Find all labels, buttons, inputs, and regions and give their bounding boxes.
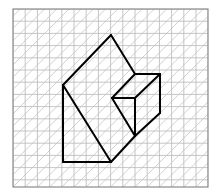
isometric-grid-diagram: [0, 0, 219, 193]
grid-diagonal-line: [0, 0, 106, 193]
grid-diagonal-line: [0, 0, 154, 193]
grid-diagonal-line: [0, 0, 45, 193]
grid-diagonal-line: [0, 0, 191, 193]
grid-diagonal-line: [0, 0, 69, 193]
grid-diagonal-line: [208, 0, 219, 193]
grid-lines: [0, 0, 219, 193]
